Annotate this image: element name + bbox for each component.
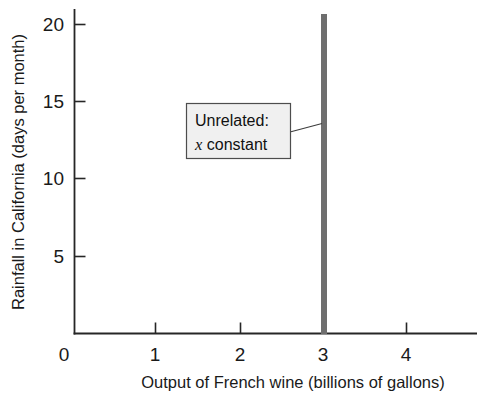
rainfall-vs-wine-bar-chart: 20 15 10 5 0 1 2 3 4 Unrelated: x consta…	[0, 0, 477, 398]
annotation-line-2-rest: constant	[202, 136, 267, 153]
x-tick-label-2: 2	[235, 344, 246, 365]
x-axis-title: Output of French wine (billions of gallo…	[141, 373, 445, 391]
y-axis-title: Rainfall in California (days per month)	[9, 34, 27, 310]
y-tick-label-10: 10	[43, 168, 64, 189]
x-tick-label-4: 4	[401, 344, 412, 365]
x-tick-label-1: 1	[150, 344, 161, 365]
y-tick-label-20: 20	[43, 14, 64, 35]
x-tick-label-0: 0	[59, 344, 70, 365]
chart-container: 20 15 10 5 0 1 2 3 4 Unrelated: x consta…	[0, 0, 477, 398]
y-tick-label-15: 15	[43, 91, 64, 112]
chart-background	[0, 0, 477, 398]
y-tick-label-5: 5	[53, 246, 64, 267]
x-tick-label-3: 3	[318, 344, 329, 365]
bar-x3	[321, 14, 327, 334]
annotation-line-1: Unrelated:	[195, 112, 269, 129]
annotation-line-2: x constant	[194, 135, 268, 154]
